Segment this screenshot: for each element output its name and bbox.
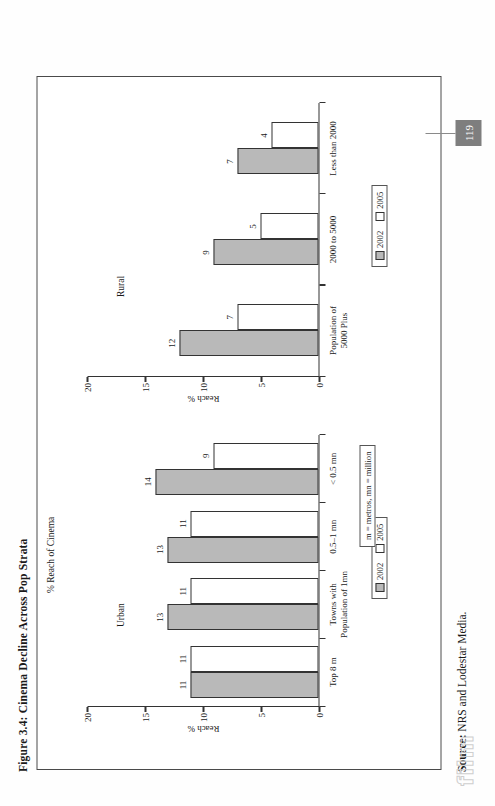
y-tick-label-20-rural: 20 (83, 383, 92, 403)
bar-value-label: 13 (155, 613, 164, 622)
bar-value-label: 11 (178, 587, 187, 596)
bar-2002-0-rural: 12 (179, 330, 318, 356)
bar-value-label: 12 (167, 339, 176, 348)
category-tick (319, 284, 325, 285)
bar-value-label: 9 (201, 250, 210, 255)
bar-group: 95 (87, 194, 318, 285)
y-tick-label-15-rural: 15 (141, 383, 150, 403)
bar-2005-3-urban: 9 (213, 443, 317, 469)
category-tick (319, 706, 325, 707)
bar-2002-0-urban: 11 (190, 672, 318, 698)
bar-group: 127 (87, 285, 318, 376)
y-tick-label-5-rural: 5 (257, 383, 266, 403)
y-tick-10-urban (202, 707, 203, 712)
figure-heading: % Reach of Cinema (45, 517, 55, 593)
category-tick (319, 570, 325, 571)
figure-frame: % Reach of Cinema Urban Reach % 05101520… (36, 76, 441, 770)
y-tick-label-20-urban: 20 (83, 713, 92, 733)
y-tick-15-rural (144, 377, 145, 382)
bar-2005-0-urban: 11 (190, 646, 318, 672)
y-tick-label-5-urban: 5 (257, 713, 266, 733)
y-tick-label-10-urban: 10 (199, 713, 208, 733)
legend-swatch-2005-rural (375, 212, 384, 221)
category-tick (319, 193, 325, 194)
category-label: Towns withPopulation of 1mn (327, 571, 361, 639)
legend-label-2005-urban: 2005 (374, 524, 384, 541)
source-value: NRS and Lodestar Media. (455, 612, 467, 735)
category-labels-rural: Population of5000 Plus2000 to 5000Less t… (327, 103, 361, 376)
bar-value-label: 4 (259, 133, 268, 138)
y-tick-5-urban (260, 707, 261, 712)
y-tick-0-rural (318, 377, 319, 382)
bar-group: 74 (87, 103, 318, 194)
legend-swatch-2005-urban (375, 544, 384, 553)
y-tick-5-rural (260, 377, 261, 382)
legend-label-2005-rural: 2005 (374, 192, 384, 209)
category-label: Population of5000 Plus (327, 285, 361, 376)
bar-2002-3-urban: 14 (155, 469, 317, 495)
film-watermark: film (452, 734, 477, 786)
legend-key-2002-urban: 2002 (374, 563, 384, 592)
bar-groups-rural: 1279574 (87, 103, 318, 376)
bar-value-label: 9 (201, 454, 210, 459)
category-ticks-rural (319, 103, 325, 377)
category-label: 2000 to 5000 (327, 194, 361, 285)
plot-area-rural: Reach % 05101520 1279574 (87, 103, 319, 377)
legend-label-2002-rural: 2002 (374, 231, 384, 248)
legend-rural: 2002 2005 (371, 185, 387, 267)
category-tick (319, 102, 325, 103)
bar-2005-0-rural: 7 (237, 304, 318, 330)
bar-group: 149 (87, 435, 318, 503)
bar-value-label: 13 (155, 545, 164, 554)
y-tick-label-10-rural: 10 (199, 383, 208, 403)
legend-swatch-2002-urban (375, 583, 384, 592)
bar-2002-2-urban: 13 (167, 537, 318, 563)
legend-label-2002-urban: 2002 (374, 563, 384, 580)
category-ticks-urban (319, 435, 325, 707)
abbreviation-note: m = metros, mn = million (359, 445, 375, 547)
y-tick-label-0-rural: 0 (315, 383, 324, 403)
bar-value-label: 7 (225, 159, 234, 164)
bar-2005-2-urban: 11 (190, 511, 318, 537)
bar-groups-urban: 111113111311149 (87, 435, 318, 706)
category-tick (319, 502, 325, 503)
page-number: 119 (455, 120, 481, 146)
bar-2005-2-rural: 4 (271, 122, 317, 148)
bar-group: 1311 (87, 570, 318, 638)
bar-group: 1311 (87, 503, 318, 571)
plot-area-urban: Reach % 05101520 111113111311149 (87, 435, 319, 707)
bar-value-label: 11 (178, 655, 187, 664)
legend-key-2005-urban: 2005 (374, 524, 384, 553)
legend-swatch-2002-rural (375, 251, 384, 260)
category-tick (319, 638, 325, 639)
y-tick-15-urban (144, 707, 145, 712)
bar-2002-1-rural: 9 (213, 239, 317, 265)
category-label: < 0.5 mn (327, 435, 361, 503)
category-labels-urban: Top 8 mTowns withPopulation of 1mn0.5–1 … (327, 435, 361, 706)
scanned-page: Figure 3.4: Cinema Decline Across Pop St… (0, 0, 495, 806)
page-number-rule (425, 133, 455, 134)
bar-value-label: 11 (178, 681, 187, 690)
chart-panel-rural: Rural Reach % 05101520 1279574 Populatio… (81, 97, 411, 417)
bar-2002-1-urban: 13 (167, 604, 318, 630)
category-label: Top 8 m (327, 638, 361, 706)
bar-value-label: 7 (225, 315, 234, 320)
y-tick-0-urban (318, 707, 319, 712)
category-label: 0.5–1 mn (327, 503, 361, 571)
y-tick-label-0-urban: 0 (315, 713, 324, 733)
bar-value-label: 5 (248, 224, 257, 229)
category-label: Less than 2000 (327, 103, 361, 194)
bar-2005-1-urban: 11 (190, 578, 318, 604)
y-tick-label-15-urban: 15 (141, 713, 150, 733)
y-tick-20-rural (86, 377, 87, 382)
bar-value-label: 11 (178, 519, 187, 528)
bar-2002-2-rural: 7 (237, 148, 318, 174)
y-tick-10-rural (202, 377, 203, 382)
category-tick (319, 376, 325, 377)
category-tick (319, 434, 325, 435)
legend-key-2002-rural: 2002 (374, 231, 384, 260)
bar-2005-1-rural: 5 (260, 213, 318, 239)
bar-value-label: 14 (143, 477, 152, 486)
y-tick-20-urban (86, 707, 87, 712)
figure-title: Figure 3.4: Cinema Decline Across Pop St… (16, 538, 28, 772)
